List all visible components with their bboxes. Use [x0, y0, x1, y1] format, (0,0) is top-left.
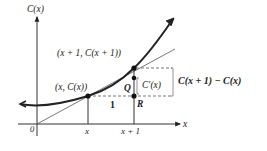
point-x-cx [85, 93, 90, 98]
x-axis-label: x [182, 119, 188, 129]
point-x1-cx1 [131, 65, 136, 70]
marginal-cost-diagram: C(x) x 0 x x + 1 (x, C(x)) (x + 1, C(x +… [0, 0, 267, 151]
tangent-rise-label: C′(x) [142, 80, 161, 91]
q-label: Q [124, 83, 131, 93]
point-x-cx-label: (x, C(x)) [55, 82, 87, 93]
r-label: R [136, 99, 143, 109]
secant-rise-bracket [171, 68, 173, 96]
secant-rise-label: C(x + 1) − C(x) [178, 75, 241, 87]
tick-x-plus-1-label: x + 1 [120, 126, 140, 136]
y-axis-label: C(x) [27, 4, 44, 15]
tangent-rise-bracket [137, 78, 139, 94]
curve-right-arrow-icon [166, 18, 174, 26]
tick-x-label: x [84, 126, 89, 136]
point-r [131, 93, 136, 98]
run-label: 1 [110, 99, 115, 110]
point-q [132, 76, 137, 81]
origin-label: 0 [30, 124, 35, 134]
point-x1-cx1-label: (x + 1, C(x + 1)) [57, 48, 121, 59]
